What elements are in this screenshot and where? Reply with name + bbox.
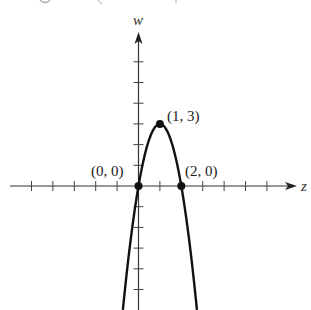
point-root2 bbox=[177, 182, 185, 190]
point-vertex bbox=[156, 120, 164, 128]
parabola-curve bbox=[123, 124, 197, 310]
w-axis-label: w bbox=[133, 12, 143, 28]
label-root2: (2, 0) bbox=[185, 163, 218, 180]
label-origin: (0, 0) bbox=[91, 163, 124, 180]
z-axis bbox=[10, 181, 297, 191]
parabola-graph: z w (0, 0) (1, 3) (2, 0) bbox=[0, 0, 311, 310]
clipped-caption-remnant bbox=[40, 0, 176, 4]
label-vertex: (1, 3) bbox=[167, 108, 200, 125]
point-origin bbox=[135, 182, 143, 190]
z-axis-label: z bbox=[300, 178, 307, 194]
